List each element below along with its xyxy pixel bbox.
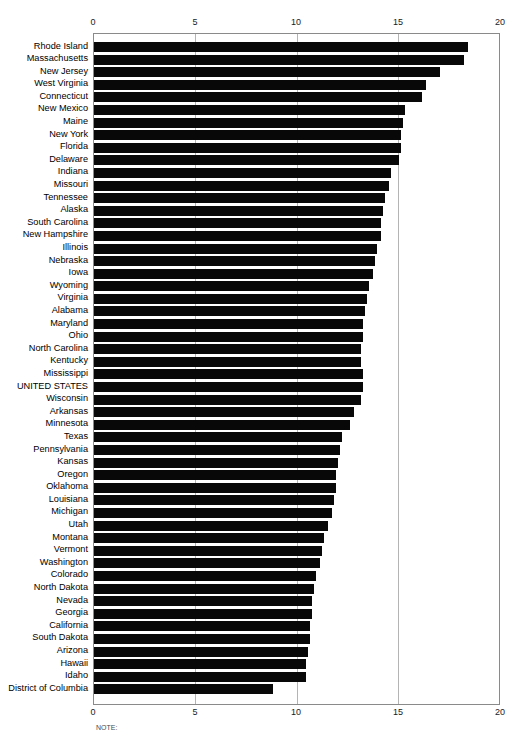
bar-category-label: Nebraska [49,255,88,266]
bar [94,395,361,405]
bar-category-label: New Mexico [38,103,88,114]
bar [94,168,391,178]
bar-row: New Hampshire [0,230,526,243]
bar-row: District of Columbia [0,683,526,696]
bar-category-label: California [49,620,88,631]
bar-category-label: Rhode Island [34,41,88,52]
bar [94,495,334,505]
bar-row: Delaware [0,154,526,167]
x-axis-top-tick-0: 0 [80,17,106,27]
bar-row: Michigan [0,507,526,520]
bar [94,256,375,266]
bar-row: Vermont [0,545,526,558]
bar-row: Missouri [0,180,526,193]
bar [94,92,422,102]
bar-category-label: Oklahoma [46,481,88,492]
bar [94,407,354,417]
bar-row: Alabama [0,305,526,318]
bar-row: Wisconsin [0,394,526,407]
bar [94,634,310,644]
bar-category-label: District of Columbia [8,683,88,694]
bar [94,357,361,367]
bar-category-label: Louisiana [49,494,88,505]
bar [94,306,365,316]
bar-category-label: Colorado [51,569,88,580]
bar [94,155,399,165]
bar [94,55,464,65]
bar [94,420,350,430]
bar-row: Arizona [0,646,526,659]
bar-category-label: Idaho [65,670,88,681]
bar [94,143,401,153]
bar-rows: Rhode IslandMassachusettsNew JerseyWest … [0,41,526,696]
bar-row: Pennsylvania [0,444,526,457]
bar-category-label: Connecticut [39,91,88,102]
bar-category-label: Pennsylvania [33,444,88,455]
bar [94,445,340,455]
x-axis-top-tick-2: 10 [283,17,309,27]
bar [94,533,324,543]
bar [94,206,383,216]
bar-row: Hawaii [0,658,526,671]
bar [94,571,316,581]
x-axis-top-tick-1: 5 [182,17,208,27]
bar-category-label: Minnesota [46,418,88,429]
bar [94,332,363,342]
x-axis-bottom-tick-0: 0 [80,707,106,717]
bar-row: North Dakota [0,583,526,596]
bar-category-label: Tennessee [44,192,88,203]
bar [94,483,336,493]
bar-row: Arkansas [0,406,526,419]
bar-row: Texas [0,431,526,444]
bar-row: Maine [0,117,526,130]
bar-row: Indiana [0,167,526,180]
bar-category-label: Alabama [52,305,88,316]
bar-category-label: Washington [40,557,88,568]
bar-category-label: New Jersey [40,66,88,77]
x-axis-top-tick-4: 20 [487,17,513,27]
x-axis-top-tick-3: 15 [385,17,411,27]
bar-row: Maryland [0,318,526,331]
bar-row: Virginia [0,293,526,306]
bar-row: Rhode Island [0,41,526,54]
bar-category-label: South Carolina [27,217,88,228]
bar-category-label: North Carolina [29,343,88,354]
x-axis-bottom-tick-4: 20 [487,707,513,717]
bar-row: Georgia [0,608,526,621]
bar-category-label: West Virginia [34,78,88,89]
bar [94,118,403,128]
bar [94,647,308,657]
bar-row: Iowa [0,268,526,281]
bar-row: Ohio [0,331,526,344]
x-axis-bottom-tick-1: 5 [182,707,208,717]
bar-category-label: Montana [52,532,88,543]
bar [94,672,306,682]
bar-category-label: Georgia [55,607,88,618]
bar-category-label: Arkansas [50,406,88,417]
bar-row: New Mexico [0,104,526,117]
bar [94,105,405,115]
bar-category-label: Kansas [57,456,88,467]
bar-row: New York [0,129,526,142]
bar [94,382,363,392]
bar-row: Tennessee [0,192,526,205]
bar-category-label: Maine [63,116,88,127]
bar-category-label: Utah [69,519,88,530]
bar-row: Oklahoma [0,482,526,495]
chart-note: NOTE: [96,723,516,732]
bar [94,42,468,52]
bar-category-label: Texas [64,431,88,442]
bar [94,281,369,291]
bar-row: Kentucky [0,356,526,369]
bar [94,684,273,694]
bar [94,244,377,254]
bar [94,659,306,669]
bar-row: Kansas [0,457,526,470]
bar [94,218,381,228]
bar-category-label: Delaware [49,154,88,165]
bar [94,67,440,77]
bar-row: South Dakota [0,633,526,646]
bar-row: Wyoming [0,280,526,293]
bar [94,181,389,191]
bar-row: Utah [0,520,526,533]
